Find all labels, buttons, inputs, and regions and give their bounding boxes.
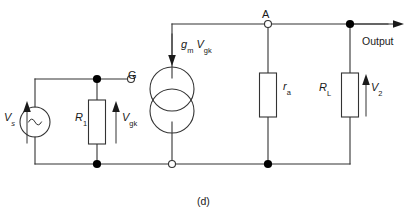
arrow-cs-head [168,55,176,66]
node-anode [265,21,272,28]
circuit-diagram-figure: Vs R1 Vgk G gm Vgk A ra RL V2 Output (d) [0,0,414,218]
junction-nodes [93,20,354,168]
node-bottom-r1 [93,160,101,168]
label-grid-voltage: Vgk [122,112,137,126]
resistor-rl-body [342,73,359,117]
node-grid-junction [93,75,101,83]
resistor-ra-body [260,73,277,117]
label-current-source: gm Vgk [181,39,212,53]
resistor-r1-body [89,100,106,144]
label-anode-resistance: ra [283,81,291,95]
label-grid-terminal: G [128,70,137,81]
label-output-terminal: Output [362,36,394,47]
node-bottom-ra [264,160,272,168]
ac-source-sine-glyph [29,119,42,125]
circuit-schematic-svg [0,0,414,218]
figure-caption: (d) [197,196,210,207]
arrow-vgk-head [112,101,120,112]
node-output [346,20,354,28]
label-anode-node: A [262,9,269,20]
label-source-voltage: Vs [4,112,15,126]
label-output-voltage: V2 [371,82,383,96]
label-load-resistor: RL [319,82,331,96]
arrow-vs-head [23,101,31,112]
node-cathode-terminal [169,161,176,168]
label-input-resistor: R1 [75,112,87,126]
arrow-output-head [393,20,404,28]
arrow-v2-head [362,74,370,85]
